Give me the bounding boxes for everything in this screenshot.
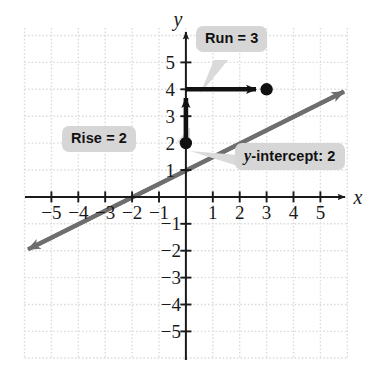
x-tick-label--5: −5 bbox=[41, 202, 61, 223]
x-tick-label-3: 3 bbox=[262, 202, 272, 223]
run-callout: Run = 3 bbox=[196, 26, 267, 52]
y-tick-label-1: 1 bbox=[166, 160, 176, 181]
x-tick-label--2: −2 bbox=[122, 202, 142, 223]
x-tick-label-2: 2 bbox=[235, 202, 245, 223]
x-tick-label--3: −3 bbox=[95, 202, 115, 223]
y-tick-label--3: −3 bbox=[161, 267, 181, 288]
point-second bbox=[260, 83, 272, 95]
rise-callout: Rise = 2 bbox=[62, 126, 136, 152]
y-tick-label-5: 5 bbox=[166, 52, 176, 73]
y-tick-label-3: 3 bbox=[166, 106, 176, 127]
y-tick-label--4: −4 bbox=[161, 294, 182, 315]
y-axis-label: y bbox=[172, 8, 183, 31]
y-tick-label-4: 4 bbox=[166, 79, 176, 100]
y-tick-label--2: −2 bbox=[161, 240, 181, 261]
x-tick-label-5: 5 bbox=[316, 202, 326, 223]
y-intercept-callout-text: -intercept: 2 bbox=[251, 148, 335, 164]
graph-figure: −5 −4 −3 −2 −1 1 2 3 4 5 5 4 3 2 1 −1 −2… bbox=[0, 0, 380, 375]
y-intercept-callout: y-intercept: 2 bbox=[235, 143, 345, 170]
x-tick-label-1: 1 bbox=[208, 202, 218, 223]
x-tick-label-4: 4 bbox=[289, 202, 299, 223]
x-axis-label: x bbox=[353, 186, 363, 208]
x-tick-label--4: −4 bbox=[68, 202, 89, 223]
y-tick-label-2: 2 bbox=[166, 133, 176, 154]
y-tick-label--5: −5 bbox=[161, 321, 181, 342]
y-tick-label--1: −1 bbox=[161, 213, 181, 234]
coordinate-plane-svg: −5 −4 −3 −2 −1 1 2 3 4 5 5 4 3 2 1 −1 −2… bbox=[0, 0, 380, 375]
point-y-intercept bbox=[180, 137, 192, 149]
